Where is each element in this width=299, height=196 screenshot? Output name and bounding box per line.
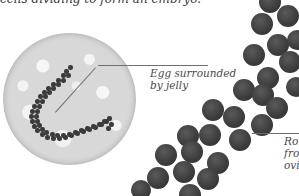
row-eggs-label-line1: Row [284,135,299,147]
spawn-dot [106,126,111,131]
spawn-dot [35,99,40,104]
spawn-dot [30,109,35,114]
spawn-dot [45,135,50,140]
spawn-dot [66,73,71,78]
row-eggs-leader-horizontal [252,133,299,134]
spawn-dot [40,99,45,104]
row-eggs-label: Row from ovid [284,135,299,171]
egg [279,51,299,73]
egg [155,144,177,166]
spawn-dot [43,94,48,99]
egg [179,184,201,196]
spawn-dot [37,104,42,109]
spawn-dot [34,114,39,119]
spawn-dot [56,82,61,87]
spawn-dot [30,119,35,124]
spawn-dot [29,114,34,119]
egg-jelly-leader-horizontal [98,65,208,66]
egg [243,44,265,66]
egg [251,13,273,35]
spawn-dot [38,94,43,99]
egg [266,97,288,119]
spawn-dot [44,130,49,135]
spawn-dot [32,104,37,109]
egg [286,77,299,97]
row-eggs-label-line3: ovid [284,159,299,171]
egg [197,168,219,190]
intro-text: cells dividing to form an embryo. [0,0,201,6]
egg [229,129,251,151]
spawn-dot [107,116,112,121]
spawn-dot [61,78,66,83]
spawn-dot [109,122,114,127]
egg [199,124,221,146]
egg [131,180,151,196]
egg [181,141,203,163]
egg [223,106,245,128]
magnified-egg-circle [3,33,136,165]
spawn-dot [61,73,66,78]
egg-jelly-label-line1: Egg surrounded [150,67,236,79]
spawn-dot [47,90,52,95]
spawn-dot [68,65,73,70]
spawn-dot [35,128,40,133]
egg [202,99,224,121]
egg-jelly-label-line2: by jelly [150,79,236,91]
egg [277,5,299,27]
egg [173,161,195,183]
spawn-dot [35,109,40,114]
row-eggs-label-line2: from [284,147,299,159]
egg-jelly-label: Egg surrounded by jelly [150,67,236,91]
spawn-dot [51,86,56,91]
